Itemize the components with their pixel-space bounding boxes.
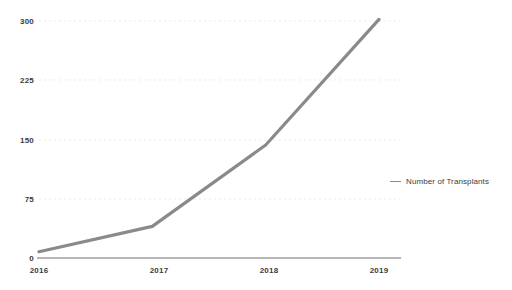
x-axis-tick-2016: 2016	[19, 266, 59, 275]
legend-line-marker-icon	[390, 181, 401, 182]
x-axis-tick-2019: 2019	[359, 266, 399, 275]
series-line-number-of-transplants	[39, 19, 379, 251]
legend[interactable]: Number of Transplants	[390, 177, 489, 186]
plot-area	[0, 0, 512, 290]
x-axis-tick-2017: 2017	[139, 266, 179, 275]
line-chart: 300 225 150 75 0 2016 2017 2018 2019 Num…	[0, 0, 512, 290]
x-axis-tick-2018: 2018	[249, 266, 289, 275]
legend-item-label: Number of Transplants	[406, 177, 489, 186]
